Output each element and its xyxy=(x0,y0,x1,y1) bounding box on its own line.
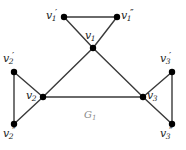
graph-node-v2 xyxy=(40,94,46,100)
vertex-label-v2pp: v2″ xyxy=(3,128,17,139)
vertex-label-v3pp: v3″ xyxy=(160,128,174,139)
graph-node-v3 xyxy=(140,94,146,100)
graph-edge-v1pp-v1 xyxy=(93,17,117,48)
graph-figure: v1′v1″v1v2′v2v2″v3′v3v3″ G1 xyxy=(0,0,186,150)
graph-node-v3p xyxy=(169,69,175,75)
graph-node-v1 xyxy=(90,45,96,51)
graph-node-v1p xyxy=(61,14,67,20)
graph-edge-v1-v3 xyxy=(93,48,143,97)
vertex-label-v1pp: v1″ xyxy=(121,10,135,21)
graph-edge-v1-v2 xyxy=(43,48,93,97)
graph-node-v2p xyxy=(11,69,17,75)
graph-node-v1pp xyxy=(114,14,120,20)
vertex-label-v3: v3 xyxy=(147,90,158,101)
vertex-label-v2: v2 xyxy=(26,90,37,101)
vertex-label-v3p: v3′ xyxy=(160,53,173,64)
graph-canvas xyxy=(0,0,186,150)
vertex-label-v1: v1 xyxy=(85,30,96,41)
vertex-label-v2p: v2′ xyxy=(3,53,16,64)
vertex-label-v1p: v1′ xyxy=(46,10,59,21)
figure-caption: G1 xyxy=(84,110,96,120)
